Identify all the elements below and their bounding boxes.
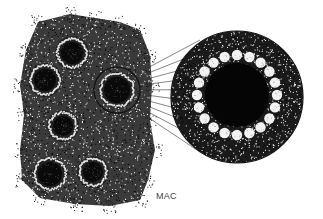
cell-middle (47, 110, 79, 142)
bacillus (270, 77, 280, 87)
bacillus (192, 90, 202, 100)
bacillus (208, 122, 218, 132)
bacillus (219, 128, 229, 138)
bacillus (264, 113, 274, 123)
bacillus (232, 130, 242, 140)
bacillus (255, 122, 265, 132)
nucleus (53, 116, 73, 136)
bacillus (270, 102, 280, 112)
bacillus (199, 113, 209, 123)
bacillus (194, 102, 204, 112)
bacillus (208, 57, 218, 67)
bacillus (244, 128, 254, 138)
bacillus (264, 66, 274, 76)
cell-bottom-right (77, 156, 109, 188)
nucleus (34, 69, 56, 91)
source-cell (99, 72, 135, 108)
cell-left (28, 63, 62, 97)
cell-top (55, 36, 89, 70)
magnified-nucleus (205, 63, 269, 127)
bacillus (272, 90, 282, 100)
magnified-view (171, 31, 304, 164)
bacillus (194, 77, 204, 87)
mac-label: MAC (156, 191, 177, 201)
bacillus (255, 57, 265, 67)
nucleus (83, 162, 103, 182)
mac-illustration (0, 0, 323, 219)
bacillus (244, 52, 254, 62)
